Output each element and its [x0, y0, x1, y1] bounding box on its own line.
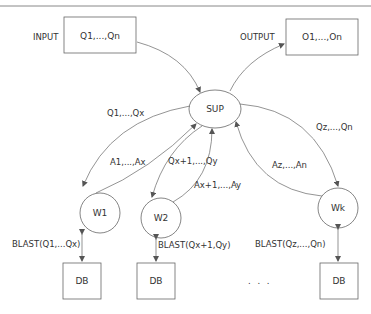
edge-label-w1-to-sup: A1,...,Ax — [110, 157, 146, 167]
edge-label-sup-to-w1: Q1,...,Qx — [107, 108, 144, 118]
distributed-blast-diagram: Q1,...,Qn INPUT O1,...,On OUTPUT SUP W1 … — [0, 0, 371, 314]
database-label-2: DB — [149, 276, 162, 286]
database-label-k: DB — [332, 276, 345, 286]
edge-label-sup-to-wk: Qz,...,Qn — [316, 122, 353, 132]
output-box-text: O1,...,On — [302, 32, 342, 42]
input-label: INPUT — [33, 32, 59, 42]
edge-label-sup-to-w2: Qx+1,...,Qy — [168, 156, 217, 166]
input-box-text: Q1,...,Qn — [80, 31, 120, 41]
worker-label-wk: Wk — [331, 203, 346, 213]
edge-sup-to-output — [230, 44, 284, 91]
edge-label-wk-to-sup: Az,...,An — [272, 160, 307, 170]
edge-wk-to-sup — [236, 122, 322, 196]
worker-label-w2: W2 — [154, 213, 169, 223]
ellipsis: . . . — [248, 276, 272, 286]
edge-label-w2-to-sup: Ax+1,...,Ay — [194, 180, 241, 190]
database-label-1: DB — [75, 276, 88, 286]
worker-label-w1: W1 — [93, 208, 108, 218]
edge-sup-to-wk — [240, 104, 338, 186]
edge-sup-to-w1 — [83, 106, 190, 186]
edge-label-w2-db: BLAST(Qx+1,Qy) — [158, 240, 230, 250]
edge-input-to-sup — [137, 42, 200, 92]
supervisor-label: SUP — [206, 104, 224, 114]
edge-label-w1-db: BLAST(Q1,...Qx) — [12, 239, 80, 249]
output-label: OUTPUT — [240, 32, 275, 42]
edge-label-wk-db: BLAST(Qz,...,Qn) — [255, 239, 326, 249]
